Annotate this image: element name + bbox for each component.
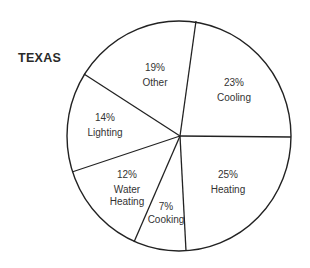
- slice-heating-pct: 25%: [218, 169, 238, 180]
- slice-heating-name: Heating: [211, 184, 245, 195]
- pie-chart: 23% Cooling 25% Heating 7% Cooking 12% W…: [0, 0, 310, 268]
- slice-lighting-pct: 14%: [95, 112, 115, 123]
- slice-lighting-name: Lighting: [87, 127, 122, 138]
- slice-cooling-name: Cooling: [217, 92, 251, 103]
- slice-cooling-pct: 23%: [224, 77, 244, 88]
- slice-cooking-name: Cooking: [148, 214, 185, 225]
- slice-water-heating-name-2: Heating: [110, 196, 144, 207]
- slice-other-pct: 19%: [145, 62, 165, 73]
- slice-other-name: Other: [142, 77, 168, 88]
- slice-cooking-pct: 7%: [159, 201, 174, 212]
- slice-water-heating-pct: 12%: [117, 169, 137, 180]
- slice-water-heating-name-1: Water: [114, 184, 141, 195]
